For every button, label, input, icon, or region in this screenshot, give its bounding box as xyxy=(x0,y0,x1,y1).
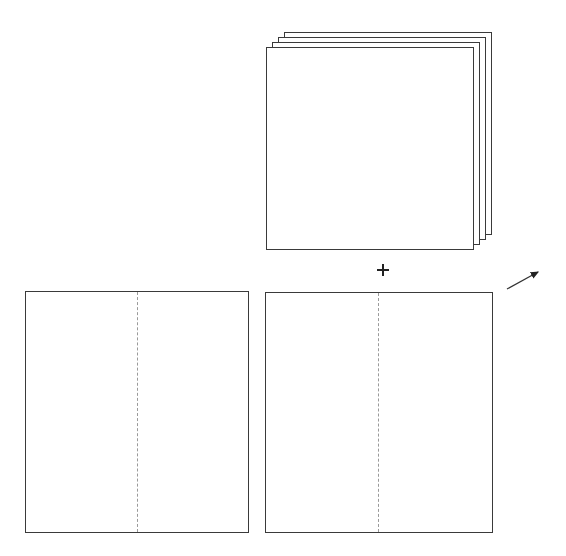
stack-sheet-front xyxy=(266,47,474,250)
left-fold-line xyxy=(137,292,138,532)
right-square-sheet xyxy=(265,292,493,533)
plus-symbol xyxy=(377,264,389,276)
right-fold-line xyxy=(378,293,379,532)
left-square-sheet xyxy=(25,291,249,533)
